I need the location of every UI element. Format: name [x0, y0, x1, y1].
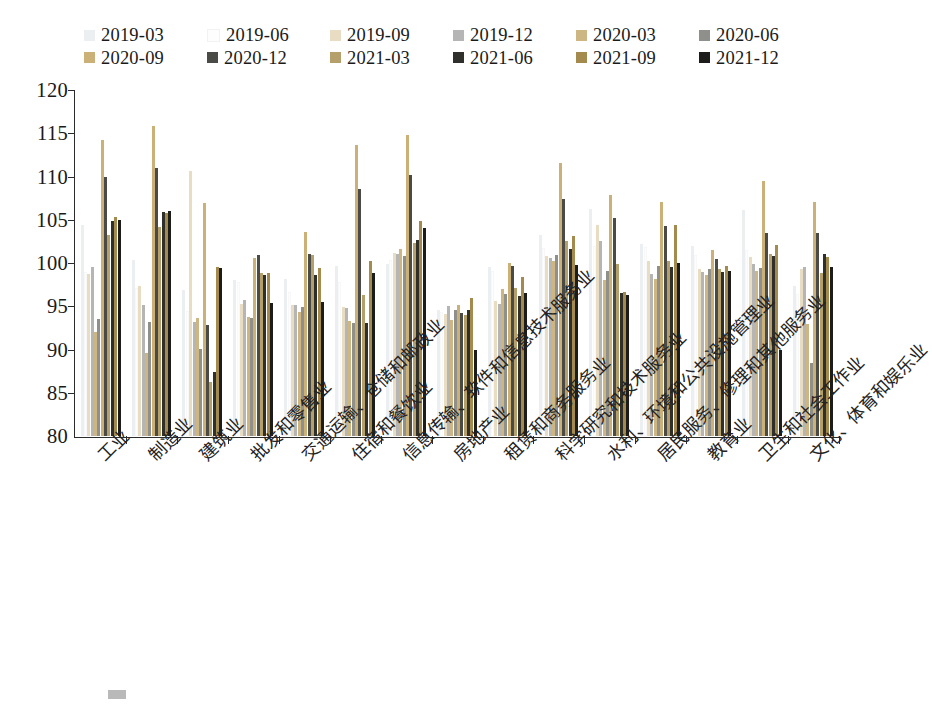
bar-group — [182, 90, 223, 436]
bar-group — [691, 90, 732, 436]
y-tick-label: 105 — [36, 208, 68, 231]
bar-group — [539, 90, 580, 436]
bar-group — [437, 90, 478, 436]
bar-group — [335, 90, 376, 436]
bar-group — [640, 90, 681, 436]
bar[interactable] — [677, 263, 680, 436]
x-tick-mark — [330, 436, 331, 444]
x-tick-mark — [533, 436, 534, 444]
x-tick-mark — [483, 436, 484, 444]
bar[interactable] — [270, 303, 273, 436]
x-tick-mark — [737, 436, 738, 444]
bar[interactable] — [321, 302, 324, 436]
x-tick-mark — [839, 436, 840, 444]
y-tick-label: 100 — [36, 252, 68, 275]
bar-group — [793, 90, 834, 436]
bar-group — [284, 90, 325, 436]
bar-group — [233, 90, 274, 436]
bar-group — [488, 90, 529, 436]
y-tick-label: 80 — [47, 425, 68, 448]
y-tick-label: 115 — [37, 122, 68, 145]
bar[interactable] — [474, 350, 477, 436]
x-tick-mark — [126, 436, 127, 444]
bar[interactable] — [219, 268, 222, 436]
bar-group — [386, 90, 427, 436]
y-tick-label: 90 — [47, 338, 68, 361]
bar[interactable] — [168, 211, 171, 436]
y-tick-label: 85 — [47, 381, 68, 404]
bar[interactable] — [626, 295, 629, 436]
bar[interactable] — [779, 350, 782, 437]
y-axis-labels: 80859095100105110115120 — [0, 0, 74, 440]
bar[interactable] — [524, 293, 527, 436]
x-tick-mark — [686, 436, 687, 444]
bar[interactable] — [728, 271, 731, 436]
x-tick-mark — [279, 436, 280, 444]
x-tick-mark — [432, 436, 433, 444]
caption-swatch-icon — [108, 690, 126, 699]
bar-group — [81, 90, 122, 436]
bar-group — [132, 90, 173, 436]
bar-group — [589, 90, 630, 436]
x-tick-mark — [228, 436, 229, 444]
bar[interactable] — [372, 273, 375, 436]
x-tick-mark — [177, 436, 178, 444]
x-tick-mark — [381, 436, 382, 444]
bar-group — [742, 90, 783, 436]
y-tick-label: 120 — [36, 79, 68, 102]
figure-caption — [108, 690, 133, 699]
y-tick-label: 95 — [47, 295, 68, 318]
bar[interactable] — [830, 267, 833, 436]
bar[interactable] — [575, 265, 578, 436]
x-tick-mark — [635, 436, 636, 444]
bar[interactable] — [423, 228, 426, 436]
x-tick-mark — [584, 436, 585, 444]
bar[interactable] — [118, 220, 121, 436]
x-tick-mark — [788, 436, 789, 444]
y-tick-label: 110 — [37, 165, 68, 188]
bars-container — [76, 90, 839, 436]
